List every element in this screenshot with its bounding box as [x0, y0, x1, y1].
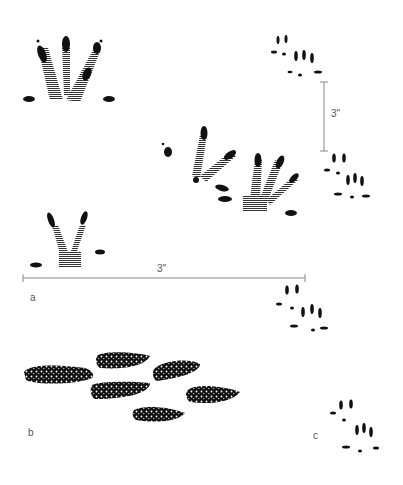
panel-label-b: b — [28, 427, 34, 438]
large-forefoot-print-lower — [30, 210, 105, 268]
large-forefoot-print-center — [162, 126, 238, 202]
small-track-set-3 — [276, 285, 328, 332]
track-illustration — [0, 0, 403, 485]
horizontal-scale-bar — [23, 274, 305, 282]
small-track-set-1 — [271, 35, 322, 77]
horizontal-scale-label: 3" — [157, 263, 166, 274]
figure-canvas: 3" 3" a b c — [0, 0, 403, 485]
panel-label-a: a — [30, 292, 36, 303]
small-track-set-2 — [324, 154, 370, 199]
large-hindfoot-print — [23, 36, 115, 102]
droppings-group — [24, 352, 240, 421]
small-track-set-4 — [330, 400, 379, 453]
panel-label-c: c — [313, 430, 318, 441]
vertical-scale-label: 3" — [331, 108, 340, 119]
large-hindfoot-print-center — [243, 153, 300, 216]
vertical-scale-bar — [320, 82, 328, 151]
